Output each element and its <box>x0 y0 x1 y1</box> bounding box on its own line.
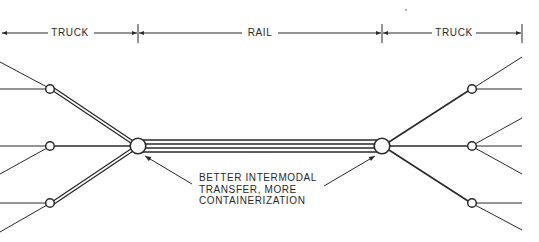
annotation-arrow-left <box>145 156 192 184</box>
truck-node-L3 <box>46 199 55 208</box>
truck-node-R2 <box>468 142 477 151</box>
annotation-line: BETTER INTERMODAL <box>199 172 317 184</box>
segment-label-rail: RAIL <box>245 27 276 39</box>
annotation-line: CONTAINERIZATION <box>199 195 317 207</box>
segment-label-truck-right: TRUCK <box>432 27 475 39</box>
left-truck-branches <box>0 62 47 232</box>
annotation-line: TRANSFER, MORE <box>199 184 317 196</box>
right-truck-branches <box>475 57 522 230</box>
truck-node-L2 <box>46 142 55 151</box>
truck-node-R3 <box>468 199 477 208</box>
truck-node-L1 <box>46 85 55 94</box>
truck-node-R1 <box>468 85 477 94</box>
annotation-text: BETTER INTERMODAL TRANSFER, MORE CONTAIN… <box>199 172 317 207</box>
right-truck-links <box>389 91 468 201</box>
scan-speck <box>405 9 407 11</box>
hub-right-terminal <box>374 138 390 154</box>
segment-label-truck-left: TRUCK <box>48 27 91 39</box>
rail-tracks <box>140 140 380 152</box>
annotation-arrow-right <box>324 156 375 186</box>
hub-left-terminal <box>130 138 146 154</box>
left-truck-links <box>53 89 132 203</box>
